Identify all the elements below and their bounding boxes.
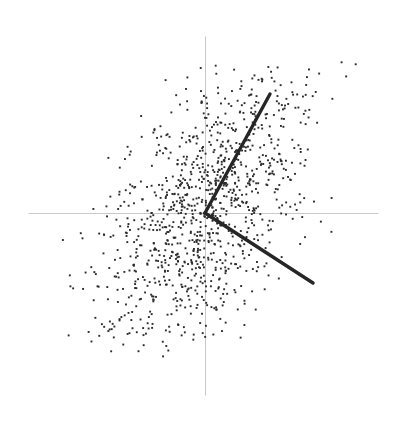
scatter-plot-canvas xyxy=(0,0,399,424)
pca-scatter-figure xyxy=(0,0,399,424)
